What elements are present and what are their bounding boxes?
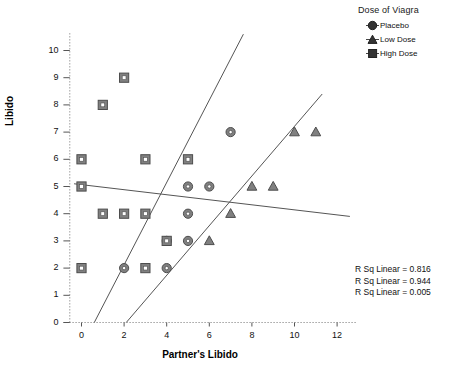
data-point-circle (205, 182, 214, 191)
axis-ticks (63, 51, 337, 327)
data-point-square (77, 182, 86, 191)
data-point-square (141, 209, 150, 218)
x-tick-label: 0 (71, 330, 93, 340)
legend-title: Dose of Viagra (358, 6, 419, 15)
y-tick-label: 4 (36, 208, 58, 218)
r-squared-placebo: R Sq Linear = 0.816 (355, 264, 431, 276)
legend-item-low-dose[interactable]: Low Dose (366, 34, 419, 45)
y-tick-label: 10 (36, 45, 58, 55)
data-point-circle (226, 128, 235, 137)
y-tick-label: 7 (36, 126, 58, 136)
data-point-circle (183, 209, 192, 218)
data-point-square (183, 155, 192, 164)
data-point-circle (120, 264, 129, 273)
y-tick-label: 3 (36, 235, 58, 245)
x-tick-label: 8 (241, 330, 263, 340)
data-point-triangle (311, 127, 321, 136)
r-squared-high-dose: R Sq Linear = 0.005 (355, 287, 431, 299)
x-tick-label: 4 (156, 330, 178, 340)
triangle-icon (366, 34, 379, 45)
x-tick-label: 10 (284, 330, 306, 340)
x-tick-label: 12 (326, 330, 348, 340)
data-point-circle (162, 264, 171, 273)
y-tick-label: 1 (36, 289, 58, 299)
legend-item-label: High Dose (380, 50, 417, 58)
data-markers (77, 73, 321, 273)
r-squared-annotations: R Sq Linear = 0.816 R Sq Linear = 0.944 … (355, 264, 431, 299)
r-squared-low-dose: R Sq Linear = 0.944 (355, 276, 431, 288)
scatter-chart: Libido Partner's Libido Dose of Viagra P… (0, 0, 475, 366)
y-tick-label: 8 (36, 99, 58, 109)
data-point-triangle (268, 181, 278, 190)
legend-items: PlaceboLow DoseHigh Dose (358, 20, 419, 59)
axis-lines (63, 33, 356, 323)
data-point-square (77, 155, 86, 164)
y-tick-label: 2 (36, 262, 58, 272)
legend-item-label: Placebo (380, 22, 409, 30)
x-axis-title: Partner's Libido (0, 349, 400, 360)
data-point-square (98, 209, 107, 218)
data-point-triangle (226, 209, 236, 218)
data-point-circle (183, 182, 192, 191)
legend: Dose of Viagra PlaceboLow DoseHigh Dose (358, 6, 419, 62)
circle-icon (366, 20, 379, 31)
x-tick-label: 2 (113, 330, 135, 340)
x-tick-label: 6 (198, 330, 220, 340)
data-point-square (77, 264, 86, 273)
data-point-triangle (290, 127, 300, 136)
data-point-triangle (204, 236, 214, 245)
data-point-square (120, 73, 129, 82)
legend-item-high-dose[interactable]: High Dose (366, 48, 419, 59)
data-point-circle (183, 236, 192, 245)
data-point-square (162, 236, 171, 245)
y-axis-title: Libido (4, 96, 15, 126)
y-tick-label: 6 (36, 153, 58, 163)
y-tick-label: 5 (36, 181, 58, 191)
data-point-triangle (247, 181, 257, 190)
y-tick-label: 0 (36, 317, 58, 327)
legend-item-placebo[interactable]: Placebo (366, 20, 419, 31)
y-tick-label: 9 (36, 72, 58, 82)
regression-lines (74, 34, 350, 322)
data-point-square (141, 155, 150, 164)
square-icon (366, 48, 379, 59)
legend-item-label: Low Dose (380, 36, 416, 44)
data-point-square (98, 100, 107, 109)
data-point-square (120, 209, 129, 218)
data-point-square (141, 264, 150, 273)
